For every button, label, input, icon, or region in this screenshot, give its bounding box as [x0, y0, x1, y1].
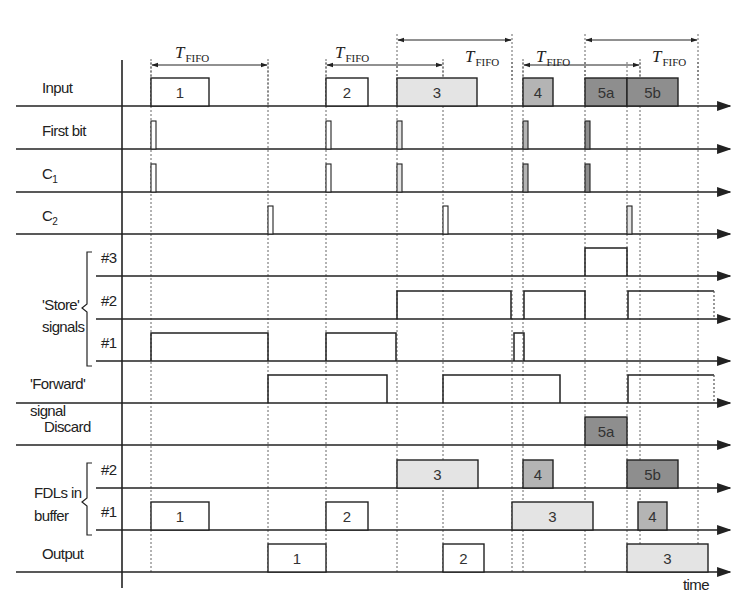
packet-input-4: 4 [523, 78, 553, 106]
forward-label-line1: 'Forward' [30, 375, 86, 392]
packet-input-5a: 5a [585, 78, 627, 106]
pulse-c1 [151, 164, 156, 192]
row-label-subscript: 2 [52, 216, 58, 227]
pulse-c1 [397, 164, 402, 192]
level-store-2 [397, 291, 511, 319]
packet-label: 4 [648, 508, 656, 525]
level-store-3 [585, 248, 627, 276]
row-label-c1: C1 [42, 165, 58, 185]
packet-discard-5a: 5a [585, 417, 627, 445]
pulse-c1 [585, 164, 590, 192]
packet-fdl-2-4: 4 [523, 460, 553, 488]
level-store-2 [524, 291, 585, 319]
row-label-output: Output [42, 545, 85, 562]
packet-label: 3 [548, 508, 556, 525]
fdl-bracket [82, 463, 92, 535]
packet-input-2: 2 [326, 78, 368, 106]
row-label-discard: Discard [44, 418, 91, 435]
packet-label: 5b [644, 466, 661, 483]
packet-label: 2 [459, 550, 467, 567]
fdl-buffer-group-label: FDLs in buffer [34, 463, 92, 535]
packet-label: 4 [534, 84, 542, 101]
t-fifo-label: TFIFO [652, 47, 686, 68]
row-label-c2: C2 [42, 207, 58, 227]
packet-output-3: 3 [627, 544, 708, 572]
t-fifo-subscript: FIFO [662, 56, 686, 68]
t-fifo-subscript: FIFO [185, 52, 209, 64]
store-label-line1: 'Store' [42, 296, 80, 313]
packet-output-1: 1 [268, 544, 326, 572]
fdl-label-line1: FDLs in [34, 484, 82, 501]
row-label-fdl-1: #1 [101, 503, 117, 520]
t-fifo-span-5: TFIFO [585, 34, 698, 80]
signal-rows: 12345a5b5a345b1234123 [16, 78, 730, 572]
packet-fdl-2-5b: 5b [627, 460, 678, 488]
level-store-1 [151, 333, 268, 361]
store-signals-group-label: 'Store' signals [42, 252, 92, 366]
packet-fdl-1-2: 2 [326, 502, 368, 530]
pulse-first-bit [151, 121, 156, 149]
packet-fdl-2-3: 3 [397, 460, 478, 488]
packet-input-1: 1 [151, 78, 209, 106]
row-label-fdl-2: #2 [101, 461, 117, 478]
pulse-c2 [627, 206, 632, 234]
pulse-first-bit [523, 121, 528, 149]
packet-label: 3 [663, 550, 671, 567]
packet-label: 1 [293, 550, 301, 567]
row-label-input: Input [42, 79, 74, 96]
forward-signal-group-label: 'Forward' signal [30, 375, 86, 419]
level-store-2 [628, 291, 714, 319]
pulse-c1 [523, 164, 528, 192]
packet-label: 2 [343, 508, 351, 525]
packet-fdl-1-3: 3 [512, 502, 593, 530]
level-forward [443, 375, 560, 403]
packet-label: 1 [176, 508, 184, 525]
row-label-subscript: 1 [52, 174, 58, 185]
row-label-store-2: #2 [101, 292, 117, 309]
t-fifo-subscript: FIFO [546, 56, 570, 68]
level-store-1 [326, 333, 396, 361]
packet-label: 3 [433, 466, 441, 483]
row-label-first-bit: First bit [42, 122, 87, 139]
t-fifo-subscript: FIFO [475, 56, 499, 68]
packet-fdl-1-1: 1 [151, 502, 209, 530]
fdl-label-line2: buffer [34, 507, 69, 524]
packet-fdl-1-4: 4 [638, 502, 667, 530]
t-fifo-label: TFIFO [175, 43, 209, 64]
packet-label: 3 [433, 84, 441, 101]
forward-label-line2: signal [30, 402, 66, 419]
level-forward [268, 375, 387, 403]
packet-output-2: 2 [443, 544, 484, 572]
t-fifo-label: TFIFO [335, 43, 369, 64]
pulse-c1 [326, 164, 331, 192]
store-bracket [82, 252, 92, 366]
row-label-store-1: #1 [101, 334, 117, 351]
packet-label: 2 [343, 84, 351, 101]
packet-input-5b: 5b [627, 78, 678, 106]
packet-label: 1 [176, 84, 184, 101]
pulse-first-bit [585, 121, 590, 149]
row-label-store-3: #3 [101, 249, 117, 266]
packet-label: 5b [644, 84, 661, 101]
pulse-first-bit [326, 121, 331, 149]
t-fifo-label: TFIFO [536, 47, 570, 68]
level-forward [628, 375, 714, 403]
timing-diagram: TFIFOTFIFOTFIFOTFIFOTFIFO 12345a5b5a345b… [0, 0, 756, 613]
pulse-first-bit [397, 121, 402, 149]
t-fifo-label: TFIFO [465, 47, 499, 68]
packet-label: 5a [598, 423, 615, 440]
t-fifo-span-3: TFIFO [397, 34, 512, 80]
t-fifo-subscript: FIFO [345, 52, 369, 64]
store-label-line2: signals [42, 318, 85, 335]
time-axis-label: time [683, 576, 709, 593]
packet-label: 4 [534, 466, 542, 483]
packet-label: 5a [598, 84, 615, 101]
pulse-c2 [443, 206, 448, 234]
time-markers [151, 62, 698, 574]
packet-input-3: 3 [397, 78, 477, 106]
level-store-1 [514, 333, 524, 361]
pulse-c2 [268, 206, 273, 234]
